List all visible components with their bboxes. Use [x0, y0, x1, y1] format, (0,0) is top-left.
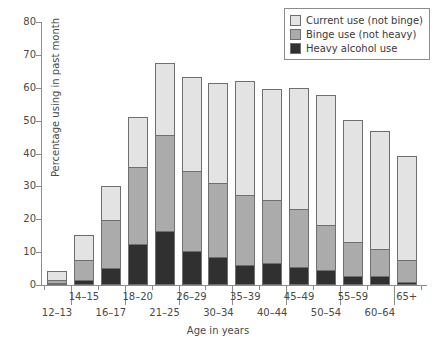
x-tick-label-14-15: 14–15 — [61, 291, 107, 302]
alcohol-use-stacked-bar-chart: Percentage using in past month 010203040… — [0, 0, 436, 345]
legend-item: Heavy alcohol use — [290, 41, 423, 55]
bar-segment-binge — [235, 195, 255, 264]
x-tick-label-50-54: 50–54 — [303, 307, 349, 318]
bar-18-20 — [128, 117, 148, 285]
bar-12-13 — [47, 271, 67, 285]
bar-segment-heavy — [289, 267, 309, 285]
y-tick-label-80: 80 — [23, 17, 36, 27]
legend-item: Current use (not binge) — [290, 13, 423, 27]
y-tick-20 — [36, 219, 41, 220]
bar-50-54 — [316, 95, 336, 285]
bar-segment-binge — [397, 260, 417, 281]
x-tick-label-30-34: 30–34 — [195, 307, 241, 318]
bar-segment-binge — [74, 260, 94, 280]
bar-segment-heavy — [128, 244, 148, 285]
x-tick-label-21-25: 21–25 — [142, 307, 188, 318]
y-axis-tick-labels: 01020304050607080 — [0, 0, 36, 285]
x-tick-label-18-20: 18–20 — [115, 291, 161, 302]
legend-swatch-icon — [290, 15, 301, 26]
bar-segment-binge — [370, 249, 390, 277]
legend-item: Binge use (not heavy) — [290, 27, 423, 41]
y-tick-0 — [36, 285, 41, 286]
y-tick-label-20: 20 — [23, 214, 36, 224]
bar-40-44 — [262, 89, 282, 285]
bar-segment-current — [182, 77, 202, 171]
bar-segment-current — [74, 235, 94, 261]
x-minor-tick — [152, 285, 153, 290]
bar-segment-heavy — [155, 231, 175, 285]
bar-65+ — [397, 156, 417, 285]
x-minor-tick — [313, 285, 314, 290]
x-tick-label-45-49: 45–49 — [276, 291, 322, 302]
x-minor-tick — [98, 285, 99, 290]
legend-swatch-icon — [290, 43, 301, 54]
bar-segment-binge — [316, 225, 336, 270]
bar-35-39 — [235, 81, 255, 285]
y-tick-80 — [36, 22, 41, 23]
x-axis-title: Age in years — [0, 325, 436, 336]
y-tick-40 — [36, 154, 41, 155]
bar-segment-current — [235, 81, 255, 196]
bar-30-34 — [208, 83, 228, 285]
bar-26-29 — [182, 77, 202, 285]
bar-segment-binge — [343, 242, 363, 276]
x-minor-tick — [367, 285, 368, 290]
y-tick-70 — [36, 55, 41, 56]
y-tick-label-10: 10 — [23, 247, 36, 257]
bar-segment-heavy — [208, 257, 228, 285]
bar-segment-binge — [128, 167, 148, 244]
bar-55-59 — [343, 120, 363, 285]
bar-segment-heavy — [182, 251, 202, 285]
bar-segment-current — [128, 117, 148, 167]
x-tick-label-65+: 65+ — [384, 291, 430, 302]
bar-segment-current — [208, 83, 228, 183]
chart-legend: Current use (not binge)Binge use (not he… — [284, 8, 430, 60]
x-tick-label-55-59: 55–59 — [330, 291, 376, 302]
bar-segment-binge — [289, 209, 309, 267]
bar-segment-heavy — [262, 263, 282, 285]
legend-label: Heavy alcohol use — [306, 43, 397, 54]
bar-segment-heavy — [47, 283, 67, 285]
bar-segment-current — [101, 186, 121, 220]
legend-label: Binge use (not heavy) — [306, 29, 416, 40]
y-tick-label-60: 60 — [23, 83, 36, 93]
y-tick-label-30: 30 — [23, 181, 36, 191]
bar-segment-binge — [208, 183, 228, 257]
bar-segment-heavy — [370, 276, 390, 285]
x-tick-label-16-17: 16–17 — [88, 307, 134, 318]
bar-segment-heavy — [316, 270, 336, 285]
bar-60-64 — [370, 131, 390, 285]
x-tick-label-35-39: 35–39 — [222, 291, 268, 302]
bar-segment-current — [316, 95, 336, 225]
x-minor-tick — [205, 285, 206, 290]
bar-segment-heavy — [397, 282, 417, 285]
bar-segment-heavy — [343, 276, 363, 285]
bar-segment-binge — [262, 200, 282, 263]
legend-swatch-icon — [290, 29, 301, 40]
x-tick-label-26-29: 26–29 — [169, 291, 215, 302]
bar-21-25 — [155, 63, 175, 285]
bar-segment-binge — [101, 220, 121, 268]
y-tick-50 — [36, 121, 41, 122]
x-minor-tick — [44, 285, 45, 290]
bar-segment-current — [289, 88, 309, 209]
bar-segment-current — [47, 271, 67, 280]
x-axis-line — [41, 285, 427, 286]
legend-label: Current use (not binge) — [306, 15, 423, 26]
x-minor-tick — [421, 285, 422, 290]
bar-segment-current — [262, 89, 282, 200]
y-tick-10 — [36, 252, 41, 253]
bar-16-17 — [101, 186, 121, 285]
y-tick-30 — [36, 186, 41, 187]
y-tick-label-70: 70 — [23, 50, 36, 60]
bar-segment-heavy — [74, 280, 94, 285]
bar-45-49 — [289, 88, 309, 285]
x-tick-label-40-44: 40–44 — [249, 307, 295, 318]
bar-segment-heavy — [235, 265, 255, 285]
y-tick-label-40: 40 — [23, 149, 36, 159]
bar-segment-binge — [155, 135, 175, 230]
x-minor-tick — [259, 285, 260, 290]
bar-segment-current — [370, 131, 390, 248]
x-tick-label-12-13: 12–13 — [34, 307, 80, 318]
bar-segment-current — [397, 156, 417, 260]
